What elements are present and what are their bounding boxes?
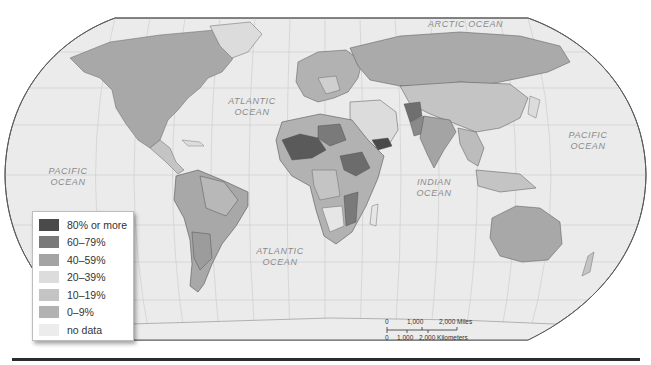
- atlantic-south-line2: OCEAN: [250, 257, 310, 268]
- scale-bar: 0 1,000 2,000 Miles 0 1,000 2,000 Kilome…: [383, 314, 523, 344]
- legend-label: 60–79%: [67, 236, 106, 248]
- scale-km-2000: 2,000 Kilometers: [419, 334, 468, 341]
- legend-label: no data: [67, 324, 102, 336]
- legend-swatch-40-59: [39, 254, 59, 266]
- legend-label: 40–59%: [67, 254, 106, 266]
- pacific-ocean-west-label: PACIFIC OCEAN: [38, 166, 98, 188]
- legend-label: 0–9%: [67, 306, 94, 318]
- legend-swatch-60-79: [39, 236, 59, 248]
- atlantic-north-line2: OCEAN: [222, 107, 282, 118]
- scale-bar-ruler: [383, 327, 483, 333]
- pacific-west-line2: OCEAN: [38, 177, 98, 188]
- atlantic-north-line1: ATLANTIC: [222, 96, 282, 107]
- legend-item: 0–9%: [39, 304, 133, 322]
- scale-km-0: 0: [385, 334, 389, 341]
- atlantic-ocean-south-label: ATLANTIC OCEAN: [250, 246, 310, 268]
- legend-label: 20–39%: [67, 271, 106, 283]
- bottom-divider: [12, 358, 640, 361]
- atlantic-ocean-north-label: ATLANTIC OCEAN: [222, 96, 282, 118]
- scale-km-1000: 1,000: [397, 334, 413, 341]
- legend-swatch-no-data: [39, 324, 59, 336]
- scale-miles-1000: 1,000: [407, 318, 423, 325]
- arctic-ocean-label: ARCTIC OCEAN: [428, 19, 503, 30]
- legend-swatch-80-plus: [39, 219, 59, 231]
- legend-swatch-0-9: [39, 306, 59, 318]
- scale-miles-2000: 2,000 Miles: [439, 318, 472, 325]
- legend-label: 80% or more: [67, 219, 127, 231]
- arctic-ocean-text: ARCTIC OCEAN: [428, 19, 503, 29]
- indian-ocean-label: INDIAN OCEAN: [409, 177, 459, 199]
- legend-swatch-20-39: [39, 271, 59, 283]
- scale-miles-0: 0: [385, 318, 389, 325]
- legend-label: 10–19%: [67, 289, 106, 301]
- legend-item: 10–19%: [39, 286, 133, 304]
- legend-item: 80% or more: [39, 216, 133, 234]
- indian-line2: OCEAN: [409, 188, 459, 199]
- legend-item: 60–79%: [39, 234, 133, 252]
- legend-swatch-10-19: [39, 289, 59, 301]
- pacific-west-line1: PACIFIC: [38, 166, 98, 177]
- pacific-ocean-east-label: PACIFIC OCEAN: [558, 130, 618, 152]
- atlantic-south-line1: ATLANTIC: [250, 246, 310, 257]
- legend-item: 20–39%: [39, 269, 133, 287]
- legend-item: no data: [39, 321, 133, 339]
- map-legend: 80% or more 60–79% 40–59% 20–39% 10–19% …: [32, 211, 134, 341]
- pacific-east-line1: PACIFIC: [558, 130, 618, 141]
- legend-item: 40–59%: [39, 251, 133, 269]
- indian-line1: INDIAN: [409, 177, 459, 188]
- pacific-east-line2: OCEAN: [558, 141, 618, 152]
